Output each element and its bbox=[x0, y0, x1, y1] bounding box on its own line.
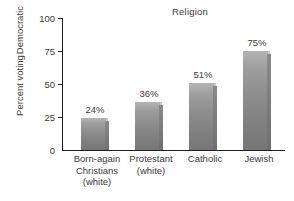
x-label-jewish: Jewish bbox=[228, 153, 290, 165]
x-label-line: Protestant bbox=[120, 153, 182, 165]
x-label-catholic: Catholic bbox=[174, 153, 236, 165]
bar-value-label: 75% bbox=[247, 37, 266, 48]
chart-title: Religion bbox=[120, 6, 260, 17]
bar-side-face bbox=[105, 121, 109, 150]
y-tick-label: 25 bbox=[44, 112, 55, 123]
y-tick-label: 50 bbox=[44, 79, 55, 90]
y-axis-label-line-1: Percent voting bbox=[14, 55, 26, 116]
x-label-line: (white) bbox=[66, 176, 128, 188]
x-label-protestant: Protestant (white) bbox=[120, 153, 182, 176]
y-axis-label: Percent voting Democratic bbox=[7, 11, 33, 111]
bar-catholic[interactable]: 51% bbox=[189, 83, 217, 150]
y-tick-label: 100 bbox=[39, 13, 55, 24]
bar-front-face bbox=[243, 51, 268, 150]
bar-slot: 51% bbox=[182, 18, 228, 150]
bar-slot: 36% bbox=[128, 18, 174, 150]
bar-front-face bbox=[135, 102, 160, 150]
bar-side-face bbox=[159, 105, 163, 150]
bar-value-label: 51% bbox=[193, 69, 212, 80]
bar-chart-figure: Religion Percent voting Democratic 100 7… bbox=[0, 0, 294, 201]
bar-slot: 24% bbox=[74, 18, 120, 150]
y-tick-label: 75 bbox=[44, 46, 55, 57]
y-tick-label: 0 bbox=[50, 145, 55, 156]
bar-protestant[interactable]: 36% bbox=[135, 102, 163, 150]
x-axis-line bbox=[62, 150, 285, 151]
bar-front-face bbox=[81, 118, 106, 150]
bar-value-label: 24% bbox=[85, 104, 104, 115]
bar-side-face bbox=[267, 54, 271, 150]
y-tick-mark bbox=[58, 84, 63, 85]
x-label-born-again-christians: Born-again Christians (white) bbox=[66, 153, 128, 188]
bar-slot: 75% bbox=[236, 18, 282, 150]
y-tick-mark bbox=[58, 51, 63, 52]
x-label-line: Catholic bbox=[174, 153, 236, 165]
x-label-line: (white) bbox=[120, 165, 182, 177]
x-label-line: Christians bbox=[66, 165, 128, 177]
x-label-line: Jewish bbox=[228, 153, 290, 165]
bar-front-face bbox=[189, 83, 214, 150]
bar-value-label: 36% bbox=[139, 88, 158, 99]
bar-born-again-christians[interactable]: 24% bbox=[81, 118, 109, 150]
bar-side-face bbox=[213, 86, 217, 150]
bar-jewish[interactable]: 75% bbox=[243, 51, 271, 150]
plot-area: 100 75 50 25 0 24% bbox=[62, 18, 285, 151]
x-label-line: Born-again bbox=[66, 153, 128, 165]
y-tick-mark bbox=[58, 18, 63, 19]
y-axis-label-line-2: Democratic bbox=[14, 6, 26, 54]
y-tick-mark bbox=[58, 117, 63, 118]
